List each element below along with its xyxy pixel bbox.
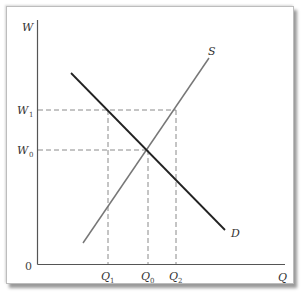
demand-label: D bbox=[230, 227, 240, 240]
supply-label: S bbox=[208, 45, 216, 58]
q2-label-base: Q bbox=[169, 270, 178, 283]
x-tick-q0: Q 0 bbox=[141, 270, 154, 285]
origin-label: 0 bbox=[25, 260, 32, 273]
q0-label-base: Q bbox=[141, 270, 150, 283]
w1-label-sub: 1 bbox=[29, 111, 33, 119]
w0-label-sub: 0 bbox=[29, 151, 33, 159]
y-tick-w1: W 1 bbox=[17, 104, 33, 119]
labor-market-diagram: W Q 0 W 1 W 0 Q 1 Q 0 Q 2 S D bbox=[0, 0, 306, 295]
q0-label-sub: 0 bbox=[150, 277, 154, 285]
q2-label-sub: 2 bbox=[178, 277, 182, 285]
x-tick-q1: Q 1 bbox=[101, 270, 114, 285]
x-tick-q2: Q 2 bbox=[169, 270, 182, 285]
q1-label-base: Q bbox=[101, 270, 110, 283]
q1-label-sub: 1 bbox=[110, 277, 114, 285]
y-axis-label: W bbox=[22, 21, 35, 34]
axes bbox=[38, 20, 286, 265]
dashed-guides bbox=[38, 110, 176, 264]
x-axis-label: Q bbox=[278, 271, 287, 284]
y-tick-w0: W 0 bbox=[17, 144, 33, 159]
